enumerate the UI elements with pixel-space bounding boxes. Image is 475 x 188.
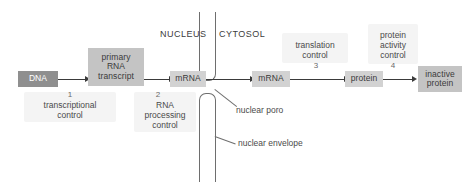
molecule-box-dna: DNA <box>18 71 58 87</box>
leader-line-nuclear-envelope <box>215 136 236 144</box>
nuclear-envelope-lower <box>199 93 216 182</box>
molecule-box-protein: protein <box>345 71 383 87</box>
step-label-3: translation control <box>282 40 348 60</box>
molecule-box-inactive-protein: inactive protein <box>418 66 462 92</box>
structure-label-nuclear-envelope: nuclear envelope <box>238 138 303 148</box>
arrow-protein-to-inactive <box>381 79 414 80</box>
arrow-transcript-to-mrna <box>143 79 171 80</box>
molecule-label-dna: DNA <box>29 74 47 84</box>
arrow-dna-to-transcript <box>57 79 87 80</box>
step-label-2-line1: RNA <box>134 100 196 110</box>
molecule-label-protein: protein <box>351 74 378 84</box>
molecule-box-mrna-nuclear: mRNA <box>170 71 206 87</box>
step-label-1-line1: transcriptional <box>24 100 116 110</box>
molecule-label-mrna-nuclear: mRNA <box>175 74 200 84</box>
step-label-2-line2: processing <box>134 110 196 120</box>
step-label-2-line3: control <box>134 120 196 130</box>
step-number-4: 4 <box>383 61 403 70</box>
molecule-box-mrna-cytosolic: mRNA <box>252 71 290 87</box>
step-label-3-line2: control <box>282 50 348 60</box>
step-number-1: 1 <box>60 90 80 99</box>
gene-expression-diagram: NUCLEUS CYTOSOL DNA primary RNA transcri… <box>0 0 475 188</box>
step-label-1-line2: control <box>24 110 116 120</box>
step-label-3-line1: translation <box>282 40 348 50</box>
compartment-label-cytosol: CYTOSOL <box>219 29 265 39</box>
step-label-4-line1: protein <box>368 30 418 40</box>
molecule-label-inactive-protein-line2: protein <box>427 79 454 89</box>
molecule-label-primary-transcript-line3: transcript <box>98 72 134 82</box>
step-label-4-line3: control <box>368 50 418 60</box>
molecule-box-primary-transcript: primary RNA transcript <box>88 48 144 86</box>
arrow-mrna-to-protein <box>290 79 346 80</box>
step-number-3: 3 <box>306 61 326 70</box>
structure-label-nuclear-pore: nuclear poro <box>236 105 283 115</box>
step-label-1: transcriptional control <box>24 100 116 120</box>
step-label-4-line2: activity <box>368 40 418 50</box>
molecule-label-mrna-cytosolic: mRNA <box>258 74 283 84</box>
arrow-mrna-export <box>204 79 252 80</box>
step-number-2: 2 <box>148 90 168 99</box>
step-label-4: protein activity control <box>368 30 418 60</box>
arrowhead-protein-to-inactive <box>412 76 417 82</box>
step-label-2: RNA processing control <box>134 100 196 130</box>
compartment-label-nucleus: NUCLEUS <box>160 29 207 39</box>
leader-line-nuclear-pore <box>214 89 237 107</box>
